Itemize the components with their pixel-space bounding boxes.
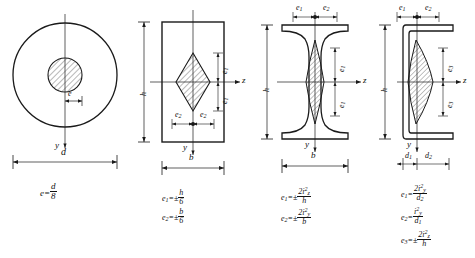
formula-rect-e1: e1=±h6: [162, 189, 184, 207]
label-e3-lower: e3: [446, 101, 454, 108]
arrowhead-d2-right: [445, 162, 449, 165]
arrowhead-e3-mid-up: [442, 78, 445, 82]
panel-i-beam-section: h z y b e1 e1 e1 e2 e1=±2i2zh e2=±2i2yb: [255, 0, 375, 258]
label-dimension-b: b: [311, 151, 316, 160]
arrowhead-e1-bottom: [334, 112, 337, 116]
arrowhead-d-right: [112, 160, 117, 164]
arrowhead-e1-h-left: [293, 15, 297, 18]
figure-canvas: e y d e=d8: [0, 0, 475, 258]
label-e2-left: e2: [175, 111, 182, 119]
formula-circle-e: e=d8: [40, 182, 57, 202]
label-axis-y: y: [407, 140, 411, 149]
label-e2-top: e2: [323, 4, 330, 12]
label-e2-top: e2: [425, 4, 432, 12]
arrowhead-e3-top: [442, 48, 445, 52]
rectangle-section-drawing: [130, 0, 255, 200]
label-e1-top: e1: [399, 4, 406, 12]
arrowhead-b-right: [343, 164, 348, 168]
panel-circle-section: e y d e=d8: [0, 0, 130, 258]
label-e3-upper: e3: [446, 65, 454, 72]
arrowhead-h-top: [383, 25, 387, 30]
arrowhead-e2-right: [210, 122, 214, 125]
arrowhead-h-bottom: [383, 134, 387, 139]
arrowhead-e1-mid-down: [334, 82, 337, 86]
arrowhead-h-top: [142, 22, 146, 27]
label-axis-z: z: [463, 76, 467, 85]
arrowhead-e1-top: [217, 53, 220, 57]
label-e1-upper: e1: [338, 65, 346, 72]
kern-circle: [48, 58, 82, 92]
arrowhead-y-axis: [415, 147, 418, 152]
i-beam-section-drawing: [255, 0, 375, 200]
arrowhead-b-left: [162, 166, 167, 170]
label-e1-top: e1: [296, 4, 303, 12]
kern-asymmetric-lens: [408, 40, 433, 124]
label-dimension-h: h: [263, 88, 271, 92]
kern-rhombus: [176, 53, 210, 111]
label-e1-lower: e1: [338, 101, 346, 108]
panel-channel-section: h z y e3 e3 e1 e2 d1 d2 e1=2i2yd2 e2=i2y…: [375, 0, 475, 258]
label-axis-y: y: [55, 141, 59, 150]
label-dimension-d: d: [61, 147, 66, 157]
label-dimension-d1: d1: [405, 152, 412, 160]
arrowhead-z-axis: [356, 80, 361, 84]
formula-ibeam-e1: e1=±2i2zh: [281, 186, 311, 206]
formula-rect-e2: e2=±b6: [162, 208, 184, 226]
arrowhead-b-right: [219, 166, 224, 170]
arrowhead-e1-mid-up: [334, 78, 337, 82]
arrowhead-e1-bottom: [217, 107, 220, 111]
panel-rectangle-section: h z y b e1 e1 e2 e2 e1=±h6 e2=±b6: [130, 0, 255, 258]
label-dimension-b: b: [189, 153, 194, 162]
label-e1-upper: e1: [221, 67, 229, 74]
label-dimension-d2: d2: [425, 152, 432, 160]
formula-channel-e3: e3=±2i2zh: [401, 229, 431, 249]
label-axis-y: y: [183, 143, 187, 152]
arrowhead-h-bottom: [265, 134, 269, 139]
arrowhead-h-bottom: [142, 137, 146, 142]
arrowhead-z-axis: [235, 80, 240, 84]
label-dimension-h: h: [140, 92, 148, 96]
arrowhead-d1-right: [413, 162, 417, 165]
circle-section-drawing: [0, 0, 130, 200]
arrowhead-e1-mid-up: [217, 78, 220, 82]
label-axis-z: z: [242, 76, 246, 85]
arrowhead-e2-h-right: [435, 15, 439, 18]
formula-ibeam-e2: e2=±2i2yb: [281, 207, 311, 227]
arrowhead-h-top: [265, 25, 269, 30]
arrowhead-e1-h-left: [397, 15, 401, 18]
label-dimension-h: h: [381, 88, 389, 92]
label-eccentricity-e: e: [68, 90, 72, 98]
arrowhead-z-axis: [456, 80, 461, 84]
label-axis-z: z: [363, 76, 367, 85]
arrowhead-d1-left: [397, 162, 401, 165]
arrowhead-e2-left: [172, 122, 176, 125]
arrowhead-e-right: [78, 99, 82, 102]
arrowhead-d-left: [13, 160, 18, 164]
formula-channel-e1: e1=2i2yd2: [401, 183, 427, 203]
formula-channel-e2: e2=i2yd1: [401, 206, 423, 226]
arrowhead-e3-bottom: [442, 112, 445, 116]
arrowhead-e2-h-right: [333, 15, 337, 18]
label-e1-lower: e1: [221, 97, 229, 104]
channel-section-drawing: [375, 0, 475, 200]
arrowhead-e-left: [65, 99, 69, 102]
label-axis-y: y: [305, 140, 309, 149]
arrowhead-e1-top: [334, 48, 337, 52]
arrowhead-e3-mid-down: [442, 82, 445, 86]
arrowhead-e1-mid-down: [217, 82, 220, 86]
arrowhead-b-left: [282, 164, 287, 168]
label-e2-right: e2: [200, 111, 207, 119]
